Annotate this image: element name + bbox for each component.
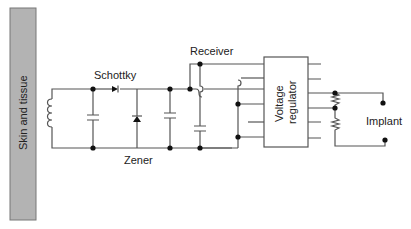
capacitor-c1-icon: [87, 89, 99, 148]
regulator-label-line1: Voltage: [273, 85, 285, 122]
receiver-label: Receiver: [190, 45, 234, 57]
capacitor-c3-icon: [194, 64, 206, 148]
skin-tissue-bar: Skin and tissue: [10, 8, 36, 220]
skin-tissue-label: Skin and tissue: [17, 75, 29, 150]
circuit-diagram: Skin and tissue Schottky Zener Receiver: [0, 0, 411, 229]
schottky-label: Schottky: [94, 69, 137, 81]
implant-label: Implant: [366, 115, 402, 127]
resistor-r2-icon: [332, 108, 385, 146]
voltage-regulator-box: Voltage regulator: [264, 57, 335, 147]
zener-label: Zener: [124, 154, 153, 166]
capacitor-c2-icon: [164, 89, 176, 148]
zener-diode-icon: [132, 89, 142, 148]
receiver-coil-icon: [48, 89, 94, 148]
schottky-diode-icon: [112, 86, 118, 93]
regulator-label-line2: regulator: [286, 80, 298, 124]
